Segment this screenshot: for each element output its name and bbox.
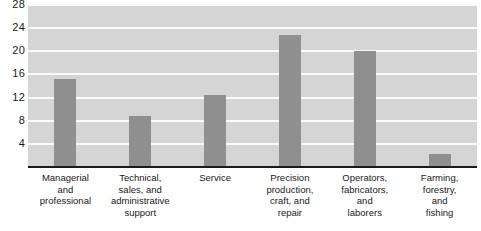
bar [429, 154, 451, 166]
x-tick-label-line: production, [247, 184, 333, 196]
gridline-12 [28, 97, 477, 99]
y-tick-label-24: 24 [1, 22, 25, 33]
plot-area [28, 4, 477, 166]
x-tick-label-line: forestry, [397, 184, 481, 196]
x-tick-label-line: craft, and [247, 195, 333, 207]
x-axis-line [28, 166, 477, 168]
x-tick-label-line: Farming, [397, 172, 481, 184]
x-tick-label-line: Operators, [322, 172, 408, 184]
x-tick-label-line: and [22, 184, 108, 196]
chart-title [28, 0, 477, 1]
x-tick-label-line: Service [172, 172, 258, 184]
bar [354, 51, 376, 166]
x-tick-label-line: fabricators, [322, 184, 408, 196]
x-tick-label-line: and [322, 195, 408, 207]
y-tick-label-28: 28 [1, 0, 25, 10]
x-tick-label-line: Precision [247, 172, 333, 184]
x-tick-label-line: professional [22, 195, 108, 207]
x-tick-label-line: Managerial [22, 172, 108, 184]
x-tick-label: Precisionproduction,craft, andrepair [247, 172, 333, 218]
x-tick-label: Operators,fabricators,andlaborers [322, 172, 408, 218]
x-tick-label-line: administrative [97, 195, 183, 207]
x-tick-label: Managerialandprofessional [22, 172, 108, 207]
x-tick-label-line: repair [247, 207, 333, 219]
bar-chart: 282420161284 ManagerialandprofessionalTe… [0, 0, 481, 231]
gridline-16 [28, 73, 477, 75]
bar [129, 116, 151, 166]
bar [54, 79, 76, 166]
x-tick-label-line: and [397, 195, 481, 207]
y-tick-label-8: 8 [1, 115, 25, 126]
x-tick-label-line: laborers [322, 207, 408, 219]
x-tick-label-line: sales, and [97, 184, 183, 196]
x-tick-label: Service [172, 172, 258, 184]
y-tick-label-16: 16 [1, 68, 25, 79]
x-tick-label-line: fishing [397, 207, 481, 219]
x-tick-label-line: support [97, 207, 183, 219]
x-tick-label-line: Technical, [97, 172, 183, 184]
x-tick-label: Farming,forestry,andfishing [397, 172, 481, 218]
gridline-4 [28, 143, 477, 145]
y-tick-label-4: 4 [1, 138, 25, 149]
bar [279, 35, 301, 166]
y-tick-label-12: 12 [1, 92, 25, 103]
x-tick-label: Technical,sales, andadministrativesuppor… [97, 172, 183, 218]
gridline-20 [28, 50, 477, 52]
y-tick-label-20: 20 [1, 45, 25, 56]
gridline-24 [28, 27, 477, 29]
x-axis-labels: ManagerialandprofessionalTechnical,sales… [28, 172, 477, 230]
bar [204, 95, 226, 166]
y-axis: 282420161284 [0, 0, 25, 170]
gridline-28 [28, 4, 477, 6]
gridline-8 [28, 120, 477, 122]
